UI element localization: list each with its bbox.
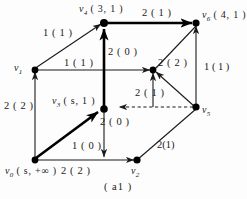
node-label-v1: v1	[14, 63, 23, 76]
edge-label-v0-v1: 2 ( 2 )	[4, 101, 34, 112]
node-v4-sub: 4	[84, 9, 88, 17]
node-v0-sub: 0	[10, 171, 14, 179]
node-v1-sub: 1	[19, 68, 23, 76]
edge-label-v0-v2: 2 ( 2 )	[61, 166, 91, 177]
node-v5	[192, 103, 199, 110]
node-v5-sub: 5	[207, 110, 211, 118]
node-v4-value: ( 3, 1 )	[90, 3, 123, 14]
edge-label-v1-inner: 1 ( 1 )	[64, 58, 94, 69]
node-label-v0: v0 ( s, +∞ )	[5, 166, 57, 179]
edge-label-v5-v3-dashed: 2 ( 1 )	[135, 88, 165, 99]
figure-panel: v4 ( 3, 1 ) v6 ( 4, 1 ) v1 v3 ( s, 1 ) v…	[0, 0, 247, 199]
edge-label-v1-v4: 1 ( 1 )	[43, 28, 73, 39]
node-v2-sub: 2	[136, 171, 140, 179]
node-label-v2: v2	[131, 166, 140, 179]
edge-label-v3-v4: 2 ( 0 )	[108, 47, 138, 58]
node-v0	[32, 157, 39, 164]
figure-caption: ( a1 )	[104, 181, 132, 192]
edge-label-v0-v3: 2 ( 0 )	[100, 117, 130, 128]
node-label-v5: v5	[202, 105, 211, 118]
node-label-v6: v6 ( 4, 1 )	[202, 10, 246, 23]
node-v6-value: ( 4, 1 )	[213, 9, 246, 20]
node-v1	[32, 67, 39, 74]
node-inner	[150, 67, 157, 74]
node-v3-value: ( s, 1 )	[63, 95, 95, 106]
edge-label-v4-v6: 2 ( 1 )	[142, 8, 172, 19]
node-v2	[133, 156, 140, 163]
node-v6-sub: 6	[207, 15, 211, 23]
edge-v2-v5	[137, 109, 196, 160]
edge-label-v2-v5: 2(1)	[157, 140, 175, 151]
node-v4	[100, 19, 108, 27]
node-v3-sub: 3	[57, 101, 61, 109]
node-label-v3: v3 ( s, 1 )	[52, 96, 95, 109]
node-v0-value: ( s, +∞ )	[16, 165, 57, 176]
node-label-v4: v4 ( 3, 1 )	[79, 4, 123, 17]
edge-label-v6-v5: 1 ( 1 )	[204, 62, 229, 73]
edge-label-v3-v2: 1 ( 0 )	[72, 141, 102, 152]
edge-label-v5-inner: 2 ( 2 )	[158, 58, 188, 69]
node-v6	[192, 19, 199, 26]
node-v3	[100, 105, 108, 113]
